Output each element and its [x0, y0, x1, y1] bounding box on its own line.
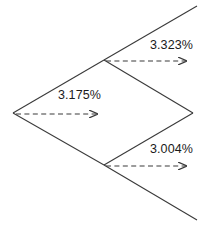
root-rate-label: 3.175%: [58, 89, 101, 102]
branch-root-to-lower: [13, 113, 104, 165]
upper-rate-label: 3.323%: [150, 39, 193, 52]
lattice-svg: [0, 0, 206, 227]
binomial-rate-tree-diagram: 3.323% 3.175% 3.004%: [0, 0, 206, 227]
branch-upper-to-middle: [104, 60, 193, 113]
lower-rate-label: 3.004%: [150, 143, 193, 156]
branch-lower-extension: [104, 165, 197, 220]
branch-lower-to-middle: [104, 113, 193, 165]
branch-root-to-upper: [13, 60, 104, 113]
